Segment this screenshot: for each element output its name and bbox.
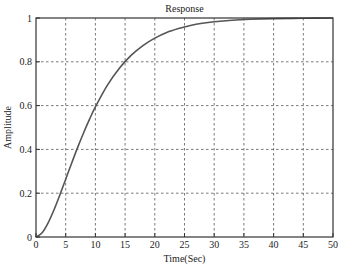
x-tick-label: 25	[180, 239, 190, 250]
chart-title: Response	[165, 3, 204, 14]
x-tick-label: 0	[34, 239, 39, 250]
x-tick-label: 10	[90, 239, 100, 250]
y-tick-label: 0.2	[20, 188, 33, 199]
x-axis-label: Time(Sec)	[164, 253, 206, 265]
x-tick-label: 40	[269, 239, 279, 250]
x-tick-label: 50	[328, 239, 338, 250]
y-tick-label: 0.6	[20, 100, 33, 111]
x-tick-label: 20	[150, 239, 160, 250]
response-chart: 05101520253035404550 00.20.40.60.81 Resp…	[0, 0, 339, 268]
y-tick-label: 0.8	[20, 56, 33, 67]
x-tick-label: 30	[209, 239, 219, 250]
y-tick-label: 0.4	[20, 144, 33, 155]
x-tick-labels: 05101520253035404550	[34, 239, 339, 250]
y-tick-labels: 00.20.40.60.81	[20, 13, 33, 243]
y-axis-label: Amplitude	[2, 106, 13, 149]
y-tick-label: 1	[27, 13, 32, 24]
x-tick-label: 35	[239, 239, 249, 250]
x-tick-label: 5	[63, 239, 68, 250]
grid	[36, 18, 333, 237]
y-tick-label: 0	[27, 232, 32, 243]
x-tick-label: 15	[120, 239, 130, 250]
x-tick-label: 45	[298, 239, 308, 250]
